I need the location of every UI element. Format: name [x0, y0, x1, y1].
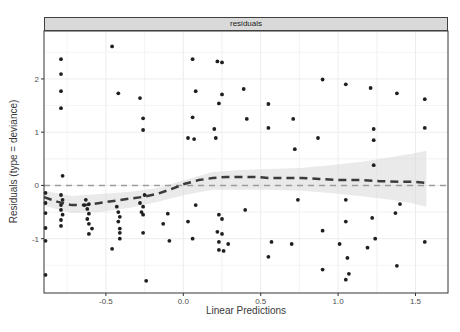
data-point	[373, 237, 377, 241]
data-point	[316, 136, 320, 140]
data-point	[242, 87, 246, 91]
data-point	[217, 213, 221, 217]
data-point	[372, 127, 376, 131]
data-point	[161, 222, 165, 226]
facet-strip: residuals	[44, 17, 448, 31]
data-point	[138, 96, 142, 100]
data-point	[395, 91, 399, 95]
data-point	[59, 106, 63, 110]
data-point	[267, 102, 271, 106]
data-point	[267, 255, 271, 259]
data-point	[293, 147, 297, 151]
data-point	[59, 57, 63, 61]
data-point	[192, 137, 196, 141]
data-point	[141, 205, 145, 209]
data-point	[212, 127, 216, 131]
data-point	[226, 242, 230, 246]
data-point	[217, 102, 221, 106]
data-point	[245, 117, 249, 121]
data-point	[214, 136, 218, 140]
y-tick-label: -1	[32, 235, 40, 244]
y-tick-label: 1	[35, 128, 40, 137]
data-point	[194, 89, 198, 93]
data-point	[141, 231, 145, 235]
data-point	[118, 227, 122, 231]
data-point	[267, 126, 271, 130]
data-point	[290, 242, 294, 246]
data-point	[61, 198, 65, 202]
data-point	[217, 248, 221, 252]
data-point	[370, 216, 374, 220]
data-point	[243, 208, 247, 212]
data-point	[347, 272, 351, 276]
data-point	[168, 239, 172, 243]
data-point	[344, 198, 348, 202]
data-point	[116, 210, 120, 214]
data-point	[346, 256, 350, 260]
data-point	[59, 218, 63, 222]
data-point	[270, 240, 274, 244]
data-point	[90, 227, 94, 231]
data-point	[291, 117, 295, 121]
data-point	[321, 229, 325, 233]
data-point	[85, 217, 89, 221]
residuals-scatter-plot: -0.50.00.51.01.5-1012	[0, 0, 460, 332]
data-point	[423, 97, 427, 101]
data-point	[87, 202, 91, 206]
data-point	[344, 82, 348, 86]
data-point	[84, 198, 88, 202]
data-point	[61, 174, 65, 178]
data-point	[118, 215, 122, 219]
data-point	[59, 89, 63, 93]
data-point	[372, 163, 376, 167]
data-point	[216, 230, 220, 234]
data-point	[110, 45, 114, 49]
data-point	[321, 268, 325, 272]
data-point	[118, 231, 122, 235]
data-point	[395, 264, 399, 268]
data-point	[338, 242, 342, 246]
y-tick-label: 2	[35, 75, 40, 84]
data-point	[110, 247, 114, 251]
data-point	[394, 211, 398, 215]
data-point	[191, 115, 195, 119]
y-axis-title: Residuals (type = deviance)	[8, 82, 19, 242]
data-point	[191, 237, 195, 241]
data-point	[87, 232, 91, 236]
data-point	[321, 78, 325, 82]
data-point	[59, 193, 63, 197]
plot-canvas: -0.50.00.51.01.5-1012 residuals Linear P…	[0, 0, 460, 332]
data-point	[372, 138, 376, 142]
data-point	[220, 61, 224, 65]
data-point	[116, 220, 120, 224]
data-point	[222, 249, 226, 253]
data-point	[118, 237, 122, 241]
data-point	[423, 240, 427, 244]
data-point	[116, 91, 120, 95]
data-point	[220, 232, 224, 236]
data-point	[85, 207, 89, 211]
data-point	[186, 220, 190, 224]
data-point	[87, 212, 91, 216]
data-point	[141, 213, 145, 217]
facet-strip-label: residuals	[230, 20, 262, 28]
data-point	[344, 278, 348, 282]
data-point	[59, 203, 63, 207]
data-point	[217, 240, 221, 244]
data-point	[59, 224, 63, 228]
data-point	[59, 72, 63, 76]
data-point	[141, 128, 145, 132]
data-point	[398, 202, 402, 206]
data-point	[59, 208, 63, 212]
data-point	[191, 57, 195, 61]
data-point	[87, 222, 91, 226]
data-point	[141, 116, 145, 120]
data-point	[186, 136, 190, 140]
data-point	[216, 60, 220, 64]
data-point	[138, 201, 142, 205]
data-point	[61, 213, 65, 217]
data-point	[144, 279, 148, 283]
data-point	[423, 126, 427, 130]
x-axis-title: Linear Predictions	[44, 305, 448, 316]
data-point	[82, 203, 86, 207]
